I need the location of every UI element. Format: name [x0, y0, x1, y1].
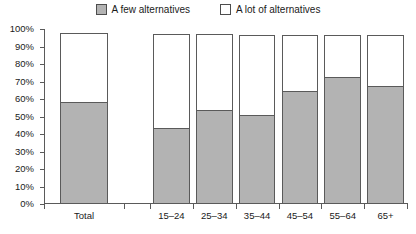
bar-total[interactable]: [60, 33, 108, 204]
bar-45-54[interactable]: [282, 35, 319, 204]
y-axis-tick: [40, 152, 44, 153]
white-swatch-icon: [220, 4, 231, 15]
bar-35-44[interactable]: [239, 35, 276, 204]
x-axis-tick: [321, 204, 322, 209]
x-axis-tick: [193, 204, 194, 209]
bar-segment-a-few-alternatives: [325, 77, 360, 203]
y-axis-tick-label: 90%: [0, 42, 34, 52]
y-axis-tick-label: 20%: [0, 164, 34, 174]
y-axis-tick: [40, 99, 44, 100]
bar-25-34[interactable]: [196, 34, 233, 204]
bar-segment-a-few-alternatives: [283, 91, 318, 203]
y-axis-tick-label: 80%: [0, 59, 34, 69]
y-axis-tick-label: 10%: [0, 182, 34, 192]
bar-segment-a-few-alternatives: [240, 115, 275, 203]
legend-item-a-few-alternatives[interactable]: A few alternatives: [96, 4, 190, 15]
x-axis-tick: [44, 204, 45, 209]
bar-15-24[interactable]: [153, 34, 190, 204]
plot-area: 100%90%80%70%60%50%40%30%20%10%0%: [44, 29, 408, 204]
bar-segment-a-few-alternatives: [154, 128, 189, 203]
y-axis-tick-label: 60%: [0, 94, 34, 104]
y-axis-tick: [40, 82, 44, 83]
y-axis-tick: [40, 169, 44, 170]
legend-label-a-few-alternatives: A few alternatives: [112, 4, 190, 15]
x-axis-label-65-: 65+: [357, 211, 414, 221]
x-axis-tick: [279, 204, 280, 209]
x-axis-label-total: Total: [50, 211, 118, 221]
y-axis-tick: [40, 187, 44, 188]
y-axis-tick-label: 0%: [0, 199, 34, 209]
y-axis-tick: [40, 29, 44, 30]
y-axis-tick: [40, 64, 44, 65]
bar-segment-a-few-alternatives: [368, 86, 403, 203]
y-axis-tick: [40, 134, 44, 135]
y-axis-tick-label: 50%: [0, 112, 34, 122]
bar-segment-a-few-alternatives: [197, 110, 232, 203]
legend-label-a-lot-of-alternatives: A lot of alternatives: [236, 4, 321, 15]
x-axis-tick: [407, 204, 408, 209]
bar-55-64[interactable]: [324, 35, 361, 204]
y-axis-tick-label: 40%: [0, 129, 34, 139]
bar-65-[interactable]: [367, 35, 404, 204]
stacked-bar-chart: A few alternatives A lot of alternatives…: [0, 0, 416, 234]
gray-swatch-icon: [96, 4, 107, 15]
legend-item-a-lot-of-alternatives[interactable]: A lot of alternatives: [220, 4, 321, 15]
y-axis-tick-label: 100%: [0, 24, 34, 34]
chart-legend: A few alternatives A lot of alternatives: [0, 4, 416, 15]
x-axis-tick: [124, 204, 125, 209]
y-axis-tick: [40, 117, 44, 118]
bar-segment-a-few-alternatives: [61, 102, 107, 204]
y-axis-tick-label: 30%: [0, 147, 34, 157]
y-axis-line: [44, 29, 45, 204]
y-axis-tick: [40, 47, 44, 48]
y-axis-tick-label: 70%: [0, 77, 34, 87]
x-axis-tick: [236, 204, 237, 209]
x-axis-tick: [364, 204, 365, 209]
x-axis-tick: [150, 204, 151, 209]
